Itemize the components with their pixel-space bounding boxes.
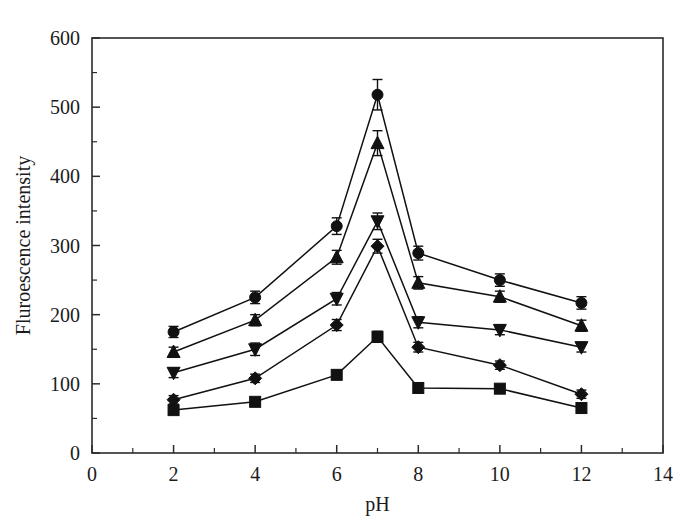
data-series-group <box>167 80 588 416</box>
data-point-triangle-up <box>412 276 425 289</box>
x-tick-label: 6 <box>332 463 342 485</box>
y-tick-label: 100 <box>50 373 80 395</box>
data-point-square <box>250 396 261 407</box>
x-tick-label: 4 <box>250 463 260 485</box>
y-axis-title: Fluroescence intensity <box>12 156 35 335</box>
x-tick-label: 10 <box>490 463 510 485</box>
y-tick-label: 200 <box>50 304 80 326</box>
y-tick-label: 500 <box>50 96 80 118</box>
x-tick-label: 12 <box>571 463 591 485</box>
data-point-circle <box>413 248 424 259</box>
y-tick-label: 0 <box>70 442 80 464</box>
data-point-circle <box>168 326 179 337</box>
x-axis-title: pH <box>365 493 389 516</box>
series-line <box>174 337 582 410</box>
data-point-square <box>372 331 383 342</box>
data-point-square <box>168 405 179 416</box>
data-point-square <box>331 369 342 380</box>
data-point-square <box>576 403 587 414</box>
series-circle <box>168 80 587 338</box>
data-point-triangle-up <box>371 136 384 149</box>
data-point-triangle-down <box>371 216 384 229</box>
data-point-triangle-up <box>330 250 343 263</box>
y-tick-label: 600 <box>50 27 80 49</box>
data-point-circle <box>494 275 505 286</box>
series-line <box>174 246 582 400</box>
data-point-circle <box>576 297 587 308</box>
chart-figure: 0100200300400500600 02468101214 pH Fluro… <box>0 0 680 525</box>
x-tick-label: 14 <box>653 463 673 485</box>
data-point-circle <box>372 89 383 100</box>
series-triangle-down <box>167 213 588 380</box>
data-point-circle <box>250 292 261 303</box>
y-axis-tick-labels: 0100200300400500600 <box>50 27 80 464</box>
data-point-diamond <box>330 319 343 332</box>
data-point-triangle-down <box>330 293 343 306</box>
x-tick-label: 8 <box>413 463 423 485</box>
x-tick-label: 0 <box>87 463 97 485</box>
data-point-circle <box>331 221 342 232</box>
y-tick-label: 300 <box>50 235 80 257</box>
series-diamond <box>167 239 588 406</box>
data-point-square <box>413 382 424 393</box>
data-point-square <box>494 383 505 394</box>
x-tick-label: 2 <box>169 463 179 485</box>
x-axis-tick-labels: 02468101214 <box>87 463 673 485</box>
data-point-diamond <box>371 240 384 253</box>
y-tick-label: 400 <box>50 165 80 187</box>
fluorescence-ph-line-chart: 0100200300400500600 02468101214 pH Fluro… <box>0 0 680 525</box>
